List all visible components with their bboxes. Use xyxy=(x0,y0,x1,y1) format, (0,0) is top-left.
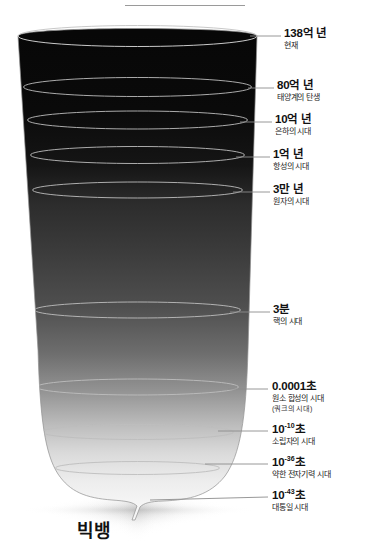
label-star-era-time: 1억 년 xyxy=(273,148,309,161)
label-solar-system-era: 태양계의 탄생 xyxy=(277,93,320,103)
label-galaxy-era: 10억 년 은하의 시대 xyxy=(275,113,312,137)
label-star-era-era: 항성의 시대 xyxy=(273,162,309,172)
label-particle-era-time: 10-10초 xyxy=(272,422,315,436)
label-galaxy-era-time: 10억 년 xyxy=(275,113,312,126)
label-grand-unification-era: 대통일 시대 xyxy=(272,503,308,513)
label-particle-era-unit: 초 xyxy=(295,423,306,435)
label-electroweak-era-base: 10 xyxy=(272,456,284,468)
label-nucleus-era-era: 핵의 시대 xyxy=(273,317,302,327)
label-electroweak-era-time: 10-36초 xyxy=(272,455,330,469)
label-solar-system-time: 80억 년 xyxy=(277,79,320,92)
label-atom-era-time: 3만 년 xyxy=(273,183,309,196)
label-galaxy-era-era: 은하의 시대 xyxy=(275,127,312,137)
label-electroweak-era-era: 약한 전자기력 시대 xyxy=(272,470,330,480)
label-now-era: 현재 xyxy=(284,41,327,51)
label-particle-era-exponent: -10 xyxy=(284,422,294,429)
cosmic-history-figure: 138억 년 현재 80억 년 태양계의 탄생 10억 년 은하의 시대 1억 … xyxy=(0,0,367,547)
label-grand-unification-time: 10-43초 xyxy=(272,488,308,502)
label-now-time: 138억 년 xyxy=(284,27,327,40)
label-nucleosynthesis: 0.0001초 원소 합성의 시대 (쿼크의 시대) xyxy=(272,380,324,413)
label-particle-era-base: 10 xyxy=(272,423,284,435)
label-particle-era: 10-10초 소립자의 시대 xyxy=(272,422,315,447)
label-atom-era: 3만 년 원자의 시대 xyxy=(273,183,309,207)
label-nucleosynthesis-era2: (쿼크의 시대) xyxy=(272,404,324,413)
bigbang-caption: 빅뱅 xyxy=(0,516,277,542)
label-electroweak-era-exponent: -36 xyxy=(284,455,294,462)
label-solar-system: 80억 년 태양계의 탄생 xyxy=(277,79,320,103)
label-grand-unification-unit: 초 xyxy=(295,489,306,501)
label-grand-unification: 10-43초 대통일 시대 xyxy=(272,488,308,513)
label-electroweak-era-unit: 초 xyxy=(295,456,306,468)
label-atom-era-era: 원자의 시대 xyxy=(273,197,309,207)
label-particle-era-era: 소립자의 시대 xyxy=(272,437,315,447)
label-electroweak-era: 10-36초 약한 전자기력 시대 xyxy=(272,455,330,480)
label-nucleosynthesis-era: 원소 합성의 시대 xyxy=(272,394,324,404)
label-grand-unification-base: 10 xyxy=(272,489,284,501)
label-grand-unification-exponent: -43 xyxy=(284,488,294,495)
label-nucleus-era: 3분 핵의 시대 xyxy=(273,303,302,327)
label-nucleosynthesis-time: 0.0001초 xyxy=(272,380,324,393)
label-now: 138억 년 현재 xyxy=(284,27,327,51)
label-star-era: 1억 년 항성의 시대 xyxy=(273,148,309,172)
label-nucleus-era-time: 3분 xyxy=(273,303,302,316)
